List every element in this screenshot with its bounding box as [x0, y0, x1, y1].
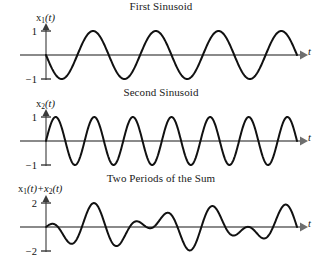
panel-second-sinusoid: Second Sinusoid x2(t) t 1 −1 [0, 86, 322, 172]
y-axis-arrowhead [43, 23, 50, 30]
y-tick-label-bottom: −1 [26, 160, 37, 171]
y-tick-label-top: 1 [32, 112, 37, 123]
sinusoid-sum-figure: First Sinusoid x1(t) t 1 −1 Second Sinus… [0, 0, 322, 258]
plot-area-second-sinusoid: 1 −1 [0, 86, 322, 172]
x-axis-arrowhead [300, 51, 308, 60]
panel-sum: Two Periods of the Sum x1(t)+x2(t) t 2 −… [0, 172, 322, 258]
y-tick-label-top: 1 [32, 26, 37, 37]
y-axis-arrowhead [43, 195, 50, 202]
panel-first-sinusoid: First Sinusoid x1(t) t 1 −1 [0, 0, 322, 86]
y-tick-label-bottom: −2 [26, 246, 37, 257]
y-axis-arrowhead [43, 109, 50, 116]
plot-area-first-sinusoid: 1 −1 [0, 0, 322, 86]
x-axis-arrowhead [300, 223, 308, 232]
plot-area-sum: 2 −2 [0, 172, 322, 258]
y-tick-label-bottom: −1 [26, 74, 37, 85]
axes-panel1: 1 −1 [20, 23, 308, 85]
axes-panel3: 2 −2 [20, 195, 308, 257]
y-tick-label-top: 2 [32, 198, 37, 209]
x-axis-arrowhead [300, 137, 308, 146]
